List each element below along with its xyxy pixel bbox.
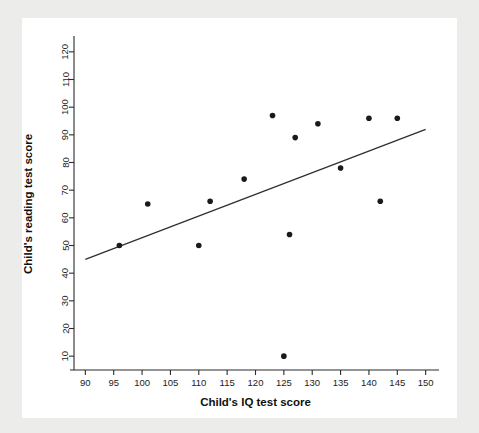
x-tick-label: 105: [162, 377, 178, 388]
data-point: [117, 243, 123, 249]
scatter-chart: 9095100105110115120125130135140145150102…: [0, 0, 479, 433]
x-tick-label: 100: [134, 377, 150, 388]
figure-container: 9095100105110115120125130135140145150102…: [0, 0, 479, 433]
x-tick-label: 130: [304, 377, 320, 388]
x-axis-title: Child's IQ test score: [200, 396, 311, 408]
data-point: [377, 198, 383, 204]
y-tick-label: 90: [60, 130, 71, 141]
x-tick-label: 110: [191, 377, 206, 388]
data-point: [270, 113, 276, 119]
y-tick-label: 80: [60, 157, 71, 168]
data-point: [207, 198, 213, 204]
data-point: [196, 243, 202, 249]
x-tick-label: 120: [248, 377, 264, 388]
y-tick-label: 10: [60, 351, 71, 362]
data-point: [292, 135, 298, 141]
x-tick-label: 90: [80, 377, 91, 388]
regression-line: [85, 129, 425, 259]
y-tick-label: 100: [60, 99, 71, 115]
data-point: [241, 176, 247, 182]
data-point: [338, 165, 344, 171]
y-tick-label: 60: [60, 213, 71, 224]
data-point: [315, 121, 321, 127]
y-tick-label: 120: [60, 44, 71, 60]
x-tick-label: 140: [361, 377, 377, 388]
data-point: [394, 115, 400, 121]
y-tick-label: 110: [60, 72, 71, 87]
x-tick-label: 115: [220, 377, 235, 388]
y-tick-label: 70: [60, 185, 71, 196]
x-tick-label: 150: [418, 377, 434, 388]
data-point: [287, 232, 293, 238]
y-tick-label: 50: [60, 240, 71, 251]
y-axis-title: Child's reading test score: [22, 134, 34, 274]
data-point: [366, 115, 372, 121]
x-tick-label: 95: [108, 377, 119, 388]
y-tick-label: 20: [60, 323, 71, 334]
y-tick-label: 30: [60, 296, 71, 307]
data-point: [145, 201, 151, 207]
data-point: [281, 353, 287, 359]
y-tick-label: 40: [60, 268, 71, 279]
x-tick-label: 145: [389, 377, 405, 388]
x-tick-label: 125: [276, 377, 292, 388]
x-tick-label: 135: [333, 377, 349, 388]
